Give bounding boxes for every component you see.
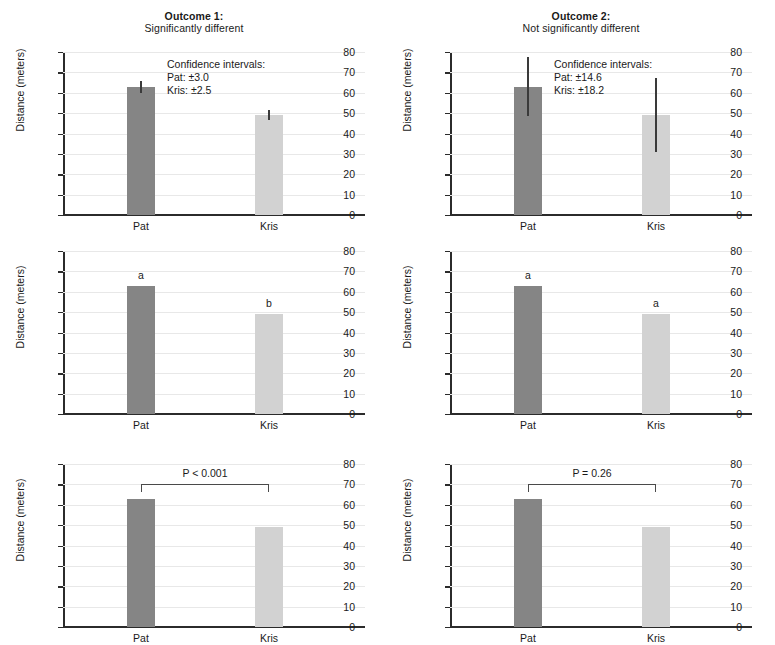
group-letter-kris: b xyxy=(249,297,289,309)
error-bar-pat xyxy=(140,81,141,93)
y-tick-label: 10 xyxy=(730,388,742,400)
y-tick-label: 30 xyxy=(343,560,355,572)
gridline xyxy=(450,505,752,506)
gridline xyxy=(450,394,752,395)
p-value-label: P = 0.26 xyxy=(532,467,652,479)
y-axis-label: Distance (meters) xyxy=(14,237,26,377)
y-tick xyxy=(58,333,63,334)
panel-title-line2: Significantly different xyxy=(0,22,388,34)
y-tick-label: 60 xyxy=(730,286,742,298)
y-tick xyxy=(445,134,450,135)
panel-title: Outcome 2: Not significantly different xyxy=(387,10,775,35)
gridline xyxy=(450,174,752,175)
y-tick xyxy=(445,464,450,465)
y-tick-label: 70 xyxy=(343,66,355,78)
y-tick-label: 30 xyxy=(730,560,742,572)
x-tick-label-kris: Kris xyxy=(229,419,309,431)
gridline xyxy=(450,134,752,135)
group-letter-kris: a xyxy=(636,297,676,309)
plot-area: 80 70 60 50 40 30 20 10 0 P < 0.001 Pat … xyxy=(63,464,365,627)
panel-outcome2-pvalue: Distance (meters) 80 70 60 50 xyxy=(387,445,775,645)
panel-title: Outcome 1: Significantly different xyxy=(0,10,388,35)
gridline xyxy=(450,586,752,587)
y-tick-label: 80 xyxy=(730,245,742,257)
y-axis-label: Distance (meters) xyxy=(14,20,26,160)
y-tick-label: 0 xyxy=(736,408,742,420)
gridline xyxy=(63,292,365,293)
y-tick-label: 60 xyxy=(343,286,355,298)
gridline xyxy=(63,525,365,526)
y-tick-label: 70 xyxy=(730,478,742,490)
y-tick xyxy=(445,52,450,53)
bracket-left-cap xyxy=(528,484,529,492)
x-tick-label-pat: Pat xyxy=(488,632,568,644)
bar-kris xyxy=(255,115,283,215)
y-tick xyxy=(445,195,450,196)
gridline xyxy=(450,113,752,114)
confidence-interval-note: Confidence intervals: Pat: ±14.6 Kris: ±… xyxy=(554,58,652,98)
y-tick-label: 30 xyxy=(343,347,355,359)
y-tick xyxy=(445,546,450,547)
y-tick-label: 70 xyxy=(730,66,742,78)
y-tick-label: 40 xyxy=(730,540,742,552)
x-tick-label-kris: Kris xyxy=(229,220,309,232)
gridline xyxy=(63,394,365,395)
y-tick xyxy=(58,353,63,354)
y-tick xyxy=(58,154,63,155)
panel-outcome1-pvalue: Distance (meters) 80 70 60 50 xyxy=(0,445,388,645)
y-tick-label: 30 xyxy=(730,148,742,160)
x-axis-line xyxy=(63,214,365,216)
y-tick xyxy=(445,333,450,334)
y-tick-label: 80 xyxy=(343,46,355,58)
x-axis-line xyxy=(450,413,752,415)
error-bar-pat xyxy=(527,57,528,117)
y-tick xyxy=(58,586,63,587)
gridline xyxy=(450,566,752,567)
y-tick xyxy=(58,251,63,252)
y-tick-label: 40 xyxy=(343,327,355,339)
significance-bracket xyxy=(528,484,656,492)
gridline xyxy=(450,353,752,354)
y-tick xyxy=(445,312,450,313)
bracket-right-cap xyxy=(268,484,269,492)
y-tick-label: 80 xyxy=(343,458,355,470)
y-tick xyxy=(445,607,450,608)
x-axis-line xyxy=(63,626,365,628)
y-tick xyxy=(58,607,63,608)
y-tick-label: 70 xyxy=(343,478,355,490)
y-tick-label: 50 xyxy=(730,519,742,531)
gridline xyxy=(450,154,752,155)
y-tick xyxy=(58,113,63,114)
y-tick-label: 0 xyxy=(349,408,355,420)
y-tick xyxy=(445,484,450,485)
y-tick-label: 80 xyxy=(730,46,742,58)
gridline xyxy=(63,251,365,252)
y-tick xyxy=(445,154,450,155)
y-tick-label: 50 xyxy=(343,306,355,318)
x-tick-label-pat: Pat xyxy=(101,220,181,232)
gridline xyxy=(63,505,365,506)
gridline xyxy=(450,292,752,293)
gridline xyxy=(63,333,365,334)
y-tick xyxy=(58,484,63,485)
y-tick-label: 60 xyxy=(730,499,742,511)
y-tick-label: 70 xyxy=(343,265,355,277)
gridline xyxy=(63,546,365,547)
y-tick-label: 10 xyxy=(730,189,742,201)
y-tick-label: 60 xyxy=(730,87,742,99)
plot-area: 80 70 60 50 40 30 20 10 0 a b Pat Kris xyxy=(63,251,365,414)
figure-root: Outcome 1: Significantly different Dista… xyxy=(0,0,775,645)
y-tick-label: 60 xyxy=(343,87,355,99)
x-tick-label-pat: Pat xyxy=(101,632,181,644)
x-tick-label-kris: Kris xyxy=(616,632,696,644)
bar-kris xyxy=(642,527,670,627)
y-tick xyxy=(58,373,63,374)
gridline xyxy=(450,464,752,465)
gridline xyxy=(450,271,752,272)
gridline xyxy=(63,353,365,354)
y-tick-label: 10 xyxy=(730,601,742,613)
y-tick-label: 0 xyxy=(736,621,742,633)
y-tick xyxy=(58,464,63,465)
bar-pat xyxy=(127,499,155,627)
panel-title-line2: Not significantly different xyxy=(387,22,775,34)
